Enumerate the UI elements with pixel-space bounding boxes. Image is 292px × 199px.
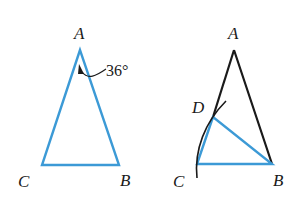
label-c-right: C [173,172,185,191]
label-d: D [191,98,205,117]
right-figure: A D C B [173,24,284,191]
arrowhead-icon [78,64,84,74]
label-a-left: A [73,24,85,43]
diagram-canvas: A 36° C B A D C B [0,0,292,199]
side-ab [234,50,272,164]
side-ad [213,50,234,117]
label-b-right: B [273,171,284,190]
label-a-right: A [227,24,239,43]
label-c-left: C [18,172,30,191]
angle-label: 36° [106,62,128,79]
left-figure: A 36° C B [18,24,131,191]
label-b-left: B [120,171,131,190]
